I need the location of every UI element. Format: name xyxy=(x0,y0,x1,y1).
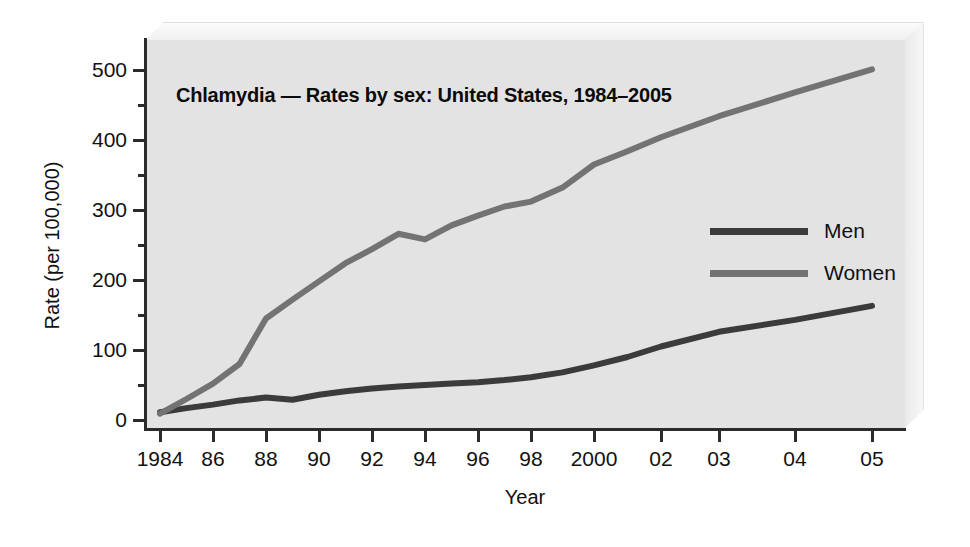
legend-swatch-icon xyxy=(710,270,808,277)
legend-item-men[interactable]: Men xyxy=(710,210,896,252)
y-axis-title: Rate (per 100,000) xyxy=(41,116,64,376)
chart-figure: 0100200300400500 19848688909294969820000… xyxy=(0,0,970,547)
x-axis-title: Year xyxy=(145,486,905,509)
chart-title: Chlamydia — Rates by sex: United States,… xyxy=(176,84,672,107)
legend-label: Men xyxy=(824,219,865,243)
legend-item-women[interactable]: Women xyxy=(710,252,896,294)
legend-swatch-icon xyxy=(710,228,808,235)
chart-legend: MenWomen xyxy=(710,210,896,294)
legend-label: Women xyxy=(824,261,896,285)
